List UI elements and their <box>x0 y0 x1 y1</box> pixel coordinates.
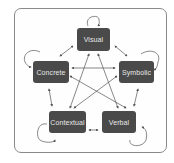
node-verbal: Verbal <box>102 111 136 133</box>
edge-visual-contextual <box>70 54 89 108</box>
self-loop-visual <box>87 16 99 26</box>
edge-visual-verbal <box>98 54 118 108</box>
node-concrete: Concrete <box>33 61 69 83</box>
node-symbolic: Symbolic <box>119 61 154 83</box>
edge-concrete-verbal <box>70 76 126 108</box>
edge-visual-symbolic <box>115 46 127 56</box>
node-contextual: Contextual <box>49 111 86 133</box>
edge-concrete-contextual <box>49 89 52 106</box>
edge-symbolic-verbal <box>134 89 138 106</box>
edge-visual-concrete <box>60 46 73 56</box>
node-visual: Visual <box>77 28 110 51</box>
edge-symbolic-contextual <box>74 76 117 108</box>
